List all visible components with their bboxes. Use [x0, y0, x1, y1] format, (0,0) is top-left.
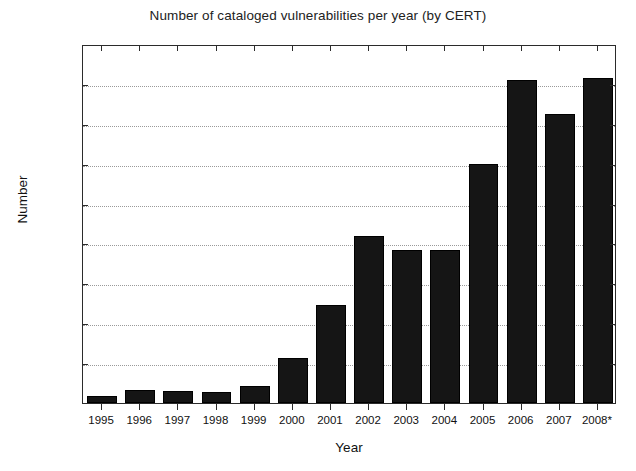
y-axis-tick-labels: 0100020003000400050006000700080009000: [0, 0, 76, 471]
x-tick-mark-2008: [597, 404, 598, 410]
bar-2004: [430, 250, 460, 403]
x-tick-label-1995: 1995: [88, 414, 114, 426]
x-tick-label-1997: 1997: [165, 414, 191, 426]
y-tick-mark-right-3000: [610, 284, 616, 285]
x-tick-label-2001: 2001: [317, 414, 343, 426]
x-tick-label-2005: 2005: [470, 414, 496, 426]
x-tick-mark-1996: [139, 404, 140, 410]
x-tick-mark-1999: [254, 404, 255, 410]
x-tick-mark-top-2002: [368, 45, 369, 51]
x-tick-mark-2007: [559, 404, 560, 410]
x-tick-label-1999: 1999: [241, 414, 267, 426]
bar-1999: [240, 386, 270, 403]
y-tick-mark-4000: [82, 244, 88, 245]
y-tick-mark-right-5000: [610, 205, 616, 206]
y-tick-mark-5000: [82, 205, 88, 206]
bar-2007: [545, 114, 575, 403]
x-tick-mark-top-2003: [406, 45, 407, 51]
x-tick-mark-top-2006: [521, 45, 522, 51]
bar-2005: [469, 164, 499, 403]
bar-1995: [87, 396, 117, 403]
y-tick-mark-7000: [82, 125, 88, 126]
bar-2006: [507, 80, 537, 403]
x-tick-mark-top-1995: [101, 45, 102, 51]
x-tick-label-2004: 2004: [432, 414, 458, 426]
x-tick-label-2006: 2006: [508, 414, 534, 426]
x-tick-mark-top-2000: [292, 45, 293, 51]
y-tick-mark-right-1000: [610, 364, 616, 365]
x-tick-mark-1998: [216, 404, 217, 410]
x-tick-label-2000: 2000: [279, 414, 305, 426]
bar-1996: [125, 390, 155, 403]
bar-2003: [392, 250, 422, 403]
y-tick-mark-1000: [82, 364, 88, 365]
x-tick-mark-2003: [406, 404, 407, 410]
y-tick-mark-6000: [82, 165, 88, 166]
x-tick-label-1996: 1996: [126, 414, 152, 426]
bar-2000: [278, 358, 308, 403]
y-tick-mark-right-2000: [610, 324, 616, 325]
chart-figure: Number of cataloged vulnerabilities per …: [0, 0, 636, 471]
x-tick-mark-1995: [101, 404, 102, 410]
x-tick-mark-1997: [177, 404, 178, 410]
bars-layer: [83, 46, 615, 403]
x-tick-mark-2001: [330, 404, 331, 410]
bar-2008: [583, 78, 613, 403]
x-tick-mark-2004: [444, 404, 445, 410]
x-tick-mark-top-2001: [330, 45, 331, 51]
bar-1998: [202, 392, 232, 403]
x-tick-mark-top-2005: [483, 45, 484, 51]
x-tick-mark-2005: [483, 404, 484, 410]
x-tick-mark-top-1996: [139, 45, 140, 51]
y-tick-mark-8000: [82, 85, 88, 86]
bar-2002: [354, 236, 384, 403]
x-axis-label: Year: [82, 440, 616, 455]
x-tick-mark-2000: [292, 404, 293, 410]
x-tick-mark-2006: [521, 404, 522, 410]
y-tick-mark-right-8000: [610, 85, 616, 86]
x-tick-label-2002: 2002: [355, 414, 381, 426]
bar-2001: [316, 305, 346, 403]
x-tick-label-2003: 2003: [393, 414, 419, 426]
y-tick-mark-right-4000: [610, 244, 616, 245]
x-tick-mark-top-1997: [177, 45, 178, 51]
x-tick-mark-top-2008: [597, 45, 598, 51]
x-tick-mark-top-1999: [254, 45, 255, 51]
x-tick-mark-top-2004: [444, 45, 445, 51]
x-tick-label-2008: 2008*: [582, 414, 612, 426]
y-tick-mark-2000: [82, 324, 88, 325]
bar-1997: [163, 391, 193, 403]
y-tick-mark-3000: [82, 284, 88, 285]
x-tick-mark-2002: [368, 404, 369, 410]
x-tick-label-2007: 2007: [546, 414, 572, 426]
x-tick-mark-top-1998: [216, 45, 217, 51]
y-tick-mark-right-6000: [610, 165, 616, 166]
y-tick-mark-right-7000: [610, 125, 616, 126]
x-tick-mark-top-2007: [559, 45, 560, 51]
chart-title: Number of cataloged vulnerabilities per …: [0, 8, 636, 23]
y-axis-label: Number: [15, 140, 30, 260]
plot-area: [82, 45, 616, 404]
x-tick-label-1998: 1998: [203, 414, 229, 426]
